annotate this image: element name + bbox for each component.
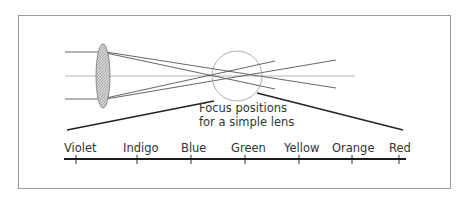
spectrum-label-indigo: Indigo <box>123 141 159 155</box>
spectrum-label-orange: Orange <box>332 141 375 155</box>
incoming-rays <box>65 52 100 99</box>
caption-line-2: for a simple lens <box>199 115 294 129</box>
spectrum-label-violet: Violet <box>64 141 97 155</box>
spectrum-label-red: Red <box>389 141 411 155</box>
convex-lens <box>96 44 110 108</box>
caption-line-1: Focus positions <box>199 101 287 115</box>
refracted-rays <box>106 52 336 99</box>
spectrum-label-green: Green <box>231 141 266 155</box>
lens-focus-diagram: Focus positions for a simple lens Violet… <box>0 0 473 204</box>
spectrum-label-yellow: Yellow <box>283 141 319 155</box>
spectrum-label-blue: Blue <box>181 141 206 155</box>
